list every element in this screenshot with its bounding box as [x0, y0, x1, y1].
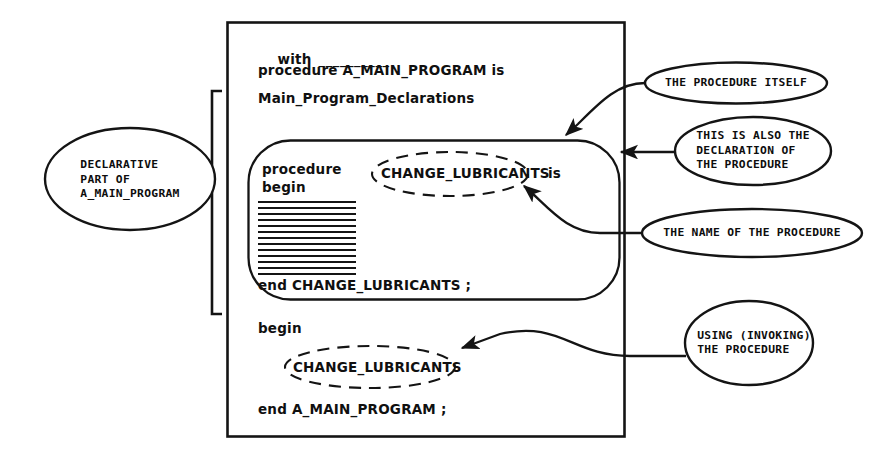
declarative-part-bracket: [212, 91, 222, 314]
code-inner-is-keyword: is: [548, 165, 561, 181]
callout-ellipse-declarative-part: [45, 128, 215, 230]
code-outer-end: end A_MAIN_PROGRAM ;: [258, 401, 447, 417]
code-inner-procedure-name: CHANGE_LUBRICANTS: [381, 165, 550, 181]
code-line-main-declarations: Main_Program_Declarations: [258, 90, 474, 106]
code-line-procedure-declaration: procedure A_MAIN_PROGRAM is: [258, 62, 505, 78]
connector-procedure-itself: [566, 83, 645, 135]
callout-ellipse-using-procedure: [685, 301, 813, 385]
code-inner-end: end CHANGE_LUBRICANTS ;: [258, 277, 471, 293]
connector-using-procedure: [462, 331, 686, 356]
callout-ellipse-procedure-itself: [645, 63, 827, 104]
code-outer-begin-keyword: begin: [258, 320, 302, 336]
code-inner-procedure-keyword: procedure: [262, 161, 342, 177]
code-outer-call-name: CHANGE_LUBRICANTS: [293, 359, 462, 375]
callout-ellipse-also-declaration: [675, 117, 831, 185]
code-inner-begin-keyword: begin: [262, 179, 306, 195]
procedure-body-hatch: [258, 202, 356, 274]
callout-ellipse-name-of-procedure: [642, 209, 862, 257]
diagram-canvas: with__________ procedure A_MAIN_PROGRAM …: [0, 0, 895, 459]
